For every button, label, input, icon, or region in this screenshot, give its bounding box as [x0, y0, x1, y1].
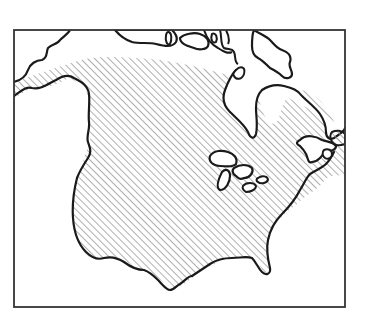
anticosti-island — [323, 149, 332, 159]
map-figure — [0, 0, 367, 323]
lake-huron — [233, 165, 253, 179]
lake-ontario — [257, 176, 269, 183]
map-svg — [0, 0, 367, 323]
newfoundland — [331, 131, 346, 146]
lake-erie — [243, 183, 256, 192]
arctic-island-3 — [166, 32, 172, 44]
lake-superior — [210, 151, 237, 167]
arctic-island-4 — [211, 34, 216, 43]
